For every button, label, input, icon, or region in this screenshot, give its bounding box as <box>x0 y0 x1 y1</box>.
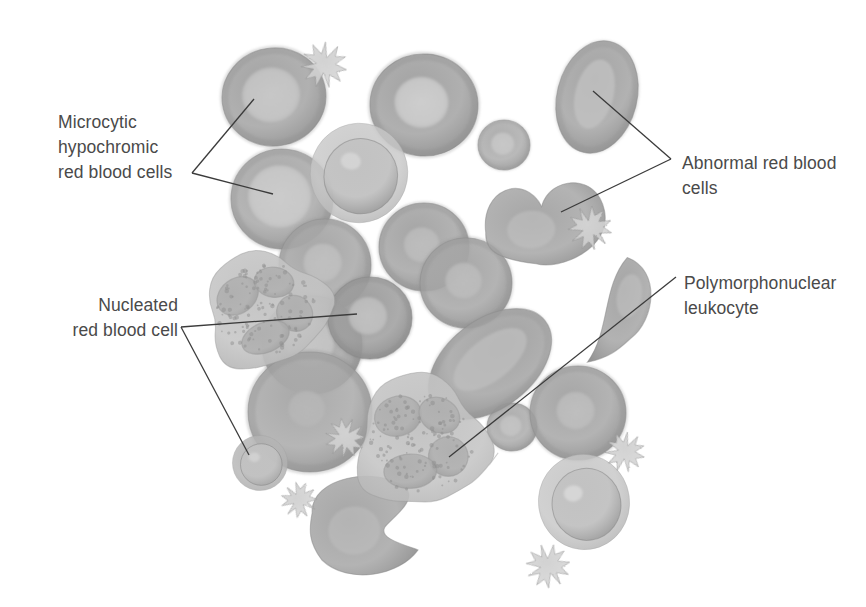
platelet-bottom-right <box>523 541 573 591</box>
blood-smear-figure: Microcytichypochromicred blood cells Abn… <box>0 0 866 607</box>
label-line: Polymorphonuclear <box>684 271 836 296</box>
label-line: leukocyte <box>684 296 836 321</box>
rbc-right-lower <box>530 366 626 460</box>
label-nucleated-red-blood-cell: Nucleatedred blood cell <box>73 293 179 343</box>
label-line: Abnormal red blood <box>682 151 837 176</box>
label-line: hypochromic <box>58 135 172 160</box>
abnormal-rbc-elliptocyte-top-right <box>544 32 649 162</box>
label-line: cells <box>682 176 837 201</box>
label-microcytic-hypochromic-red-blood-cells: Microcytichypochromicred blood cells <box>58 110 172 185</box>
label-line: Microcytic <box>58 110 172 135</box>
nucleated-rbc-small-lower-left <box>232 435 287 490</box>
label-abnormal-red-blood-cells: Abnormal red bloodcells <box>682 151 837 201</box>
label-line: Nucleated <box>73 293 179 318</box>
label-line: red blood cells <box>58 160 172 185</box>
label-polymorphonuclear-leukocyte: Polymorphonuclearleukocyte <box>684 271 836 321</box>
label-line: red blood cell <box>73 318 179 343</box>
small-rbc-center-right <box>478 120 530 170</box>
target-rbc-center <box>328 277 412 359</box>
teardrop-rbc-right <box>587 254 657 371</box>
